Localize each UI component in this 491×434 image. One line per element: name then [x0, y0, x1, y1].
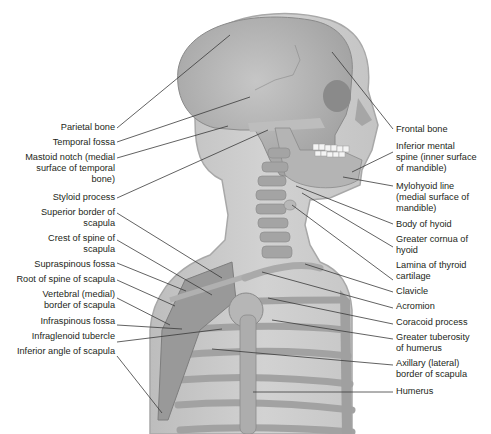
- label-parietal-bone: Parietal bone: [61, 122, 115, 133]
- label-root-of-spine-of-scapula: Root of spine of scapula: [16, 274, 115, 285]
- label-mastoid-notch: Mastoid notch (medialsurface of temporal…: [25, 152, 115, 185]
- label-clavicle: Clavicle: [396, 286, 428, 297]
- label-vertebral-border-of-scapula: Vertebral (medial)border of scapula: [42, 289, 115, 311]
- label-styloid-process: Styloid process: [53, 192, 115, 203]
- label-crest-of-spine-of-scapula: Crest of spine ofscapula: [48, 233, 115, 255]
- label-inferior-mental-spine: Inferior mentalspine (inner surfaceof ma…: [396, 141, 477, 174]
- label-greater-cornua-of-hyoid: Greater cornua ofhyoid: [396, 234, 468, 256]
- label-frontal-bone: Frontal bone: [396, 124, 448, 135]
- label-body-of-hyoid: Body of hyoid: [396, 219, 452, 230]
- label-superior-border-of-scapula: Superior border ofscapula: [41, 207, 115, 229]
- label-inferior-angle-of-scapula: Inferior angle of scapula: [17, 346, 115, 357]
- label-mylohyoid-line: Mylohyoid line(medial surface ofmandible…: [396, 181, 469, 214]
- label-axillary-border-of-scapula: Axillary (lateral)border of scapula: [396, 358, 467, 380]
- label-supraspinous-fossa: Supraspinous fossa: [34, 259, 115, 270]
- label-greater-tuberosity-of-humerus: Greater tuberosityof humerus: [396, 332, 470, 354]
- label-humerus: Humerus: [396, 386, 433, 397]
- label-infraglenoid-tubercle: Infraglenoid tubercle: [32, 331, 115, 342]
- label-coracoid-process: Coracoid process: [396, 317, 468, 328]
- label-acromion: Acromion: [396, 301, 435, 312]
- label-temporal-fossa: Temporal fossa: [53, 137, 115, 148]
- label-infraspinous-fossa: Infraspinous fossa: [40, 316, 115, 327]
- label-lamina-of-thyroid-cartilage: Lamina of thyroidcartilage: [396, 260, 466, 282]
